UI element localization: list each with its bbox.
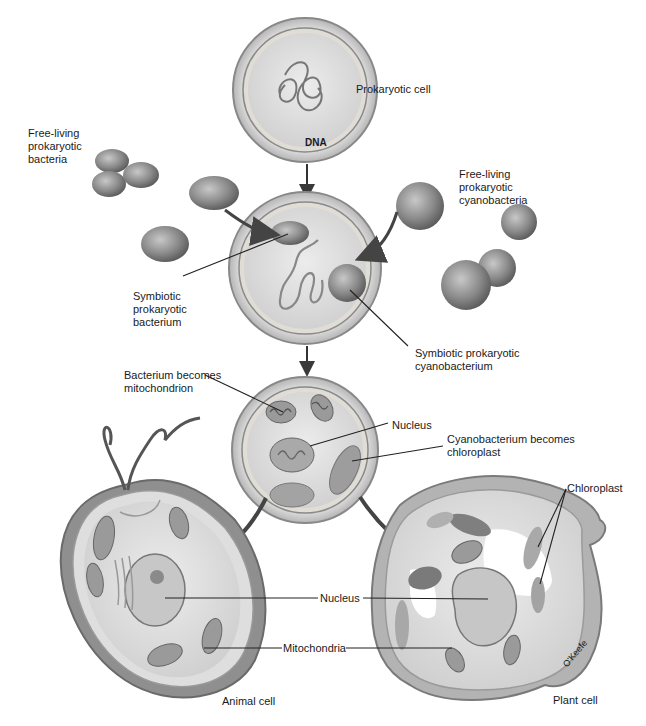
chloroplast-intermediate-2 [270, 483, 314, 507]
engulfed-cyanobacterium [328, 264, 366, 302]
plant-chloroplast-5 [395, 600, 409, 650]
label-free-living-bacteria: Free-living prokaryotic bacteria [28, 127, 82, 166]
intermediate-eukaryotic-cell [232, 377, 378, 523]
plant-nucleus [452, 568, 516, 646]
free-living-bacteria [92, 149, 239, 262]
label-symbiotic-cyanobacterium: Symbiotic prokaryotic cyanobacterium [415, 347, 520, 373]
label-symbiotic-bacterium: Symbiotic prokaryotic bacterium [133, 290, 187, 329]
label-bacterium-becomes-mitochondrion: Bacterium becomes mitochondrion [124, 369, 221, 395]
label-free-living-cyanobacteria: Free-living prokaryotic cyanobacteria [459, 168, 528, 207]
label-nucleus-intermediate: Nucleus [392, 419, 432, 432]
animal-nucleus [125, 554, 185, 626]
label-nucleus-shared: Nucleus [320, 592, 360, 605]
engulfing-cell [229, 192, 381, 344]
label-dna: DNA [305, 136, 327, 149]
label-mitochondria-shared: Mitochondria [283, 642, 346, 655]
plant-chloroplast-4 [531, 577, 545, 613]
label-chloroplast: Chloroplast [567, 482, 623, 495]
diagram-artwork [0, 0, 646, 726]
label-animal-cell: Animal cell [222, 695, 275, 708]
nucleolus [150, 570, 164, 584]
label-plant-cell: Plant cell [553, 694, 598, 707]
label-cyanobacterium-becomes-chloroplast: Cyanobacterium becomes chloroplast [447, 433, 575, 459]
label-prokaryotic-cell: Prokaryotic cell [356, 83, 431, 96]
engulfed-bacterium [271, 221, 309, 245]
endosymbiosis-diagram: Prokaryotic cell DNA Free-living prokary… [0, 0, 646, 726]
nucleus-intermediate [270, 438, 314, 472]
